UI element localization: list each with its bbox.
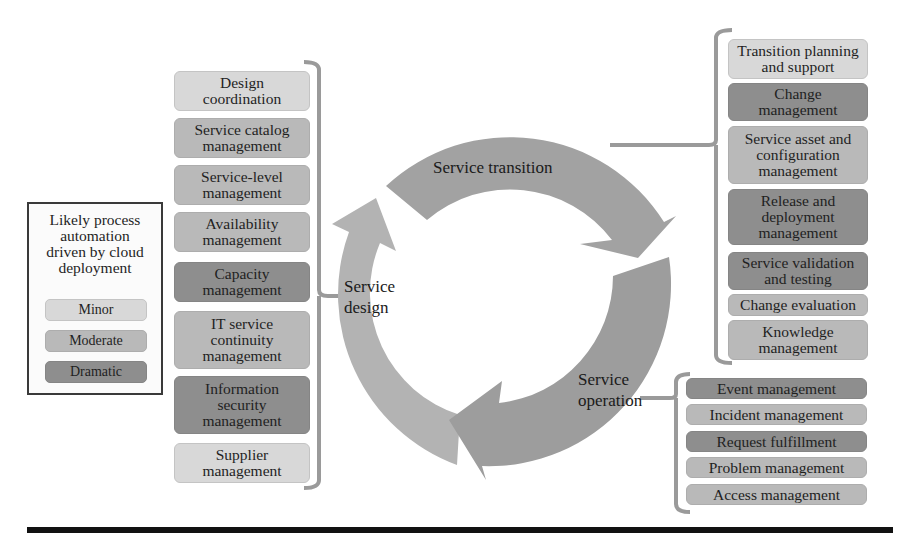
legend-moderate: Moderate bbox=[45, 330, 147, 352]
process-problem-management: Problem management bbox=[686, 457, 867, 478]
process-knowledge-management: Knowledge management bbox=[728, 320, 868, 360]
process-transition-planning-and-support: Transition planning and support bbox=[728, 39, 868, 79]
process-request-fulfillment: Request fulfillment bbox=[686, 431, 867, 452]
stage-label-service-design: Service design bbox=[344, 276, 395, 318]
process-it-service-continuity-management: IT service continuity management bbox=[174, 311, 310, 369]
legend: Likely process automation driven by clou… bbox=[27, 202, 163, 395]
process-service-level-management: Service-level management bbox=[174, 165, 310, 205]
process-service-catalog-management: Service catalog management bbox=[174, 118, 310, 158]
bottom-rule bbox=[27, 527, 893, 533]
legend-minor: Minor bbox=[45, 299, 147, 321]
process-event-management: Event management bbox=[686, 378, 867, 399]
process-capacity-management: Capacity management bbox=[174, 262, 310, 302]
service-design-arrow bbox=[332, 198, 460, 465]
service-transition-arrow bbox=[386, 137, 676, 258]
process-service-asset-and-configuration-management: Service asset and configuration manageme… bbox=[728, 126, 868, 184]
process-availability-management: Availability management bbox=[174, 212, 310, 252]
legend-dramatic: Dramatic bbox=[45, 361, 147, 383]
process-release-and-deployment-management: Release and deployment management bbox=[728, 189, 868, 245]
service-operation-bracket bbox=[640, 374, 690, 512]
stage-label-service-transition: Service transition bbox=[433, 157, 552, 178]
process-access-management: Access management bbox=[686, 484, 867, 505]
process-information-security-management: Information security management bbox=[174, 376, 310, 434]
process-service-validation-and-testing: Service validation and testing bbox=[728, 252, 868, 290]
service-design-bracket bbox=[304, 62, 345, 488]
process-change-evaluation: Change evaluation bbox=[728, 294, 868, 316]
process-change-management: Change management bbox=[728, 83, 868, 121]
legend-title: Likely process automation driven by clou… bbox=[29, 212, 161, 276]
stage-label-service-operation: Service operation bbox=[578, 369, 642, 411]
process-supplier-management: Supplier management bbox=[174, 443, 310, 483]
process-design-coordination: Design coordination bbox=[174, 71, 310, 111]
process-incident-management: Incident management bbox=[686, 404, 867, 425]
